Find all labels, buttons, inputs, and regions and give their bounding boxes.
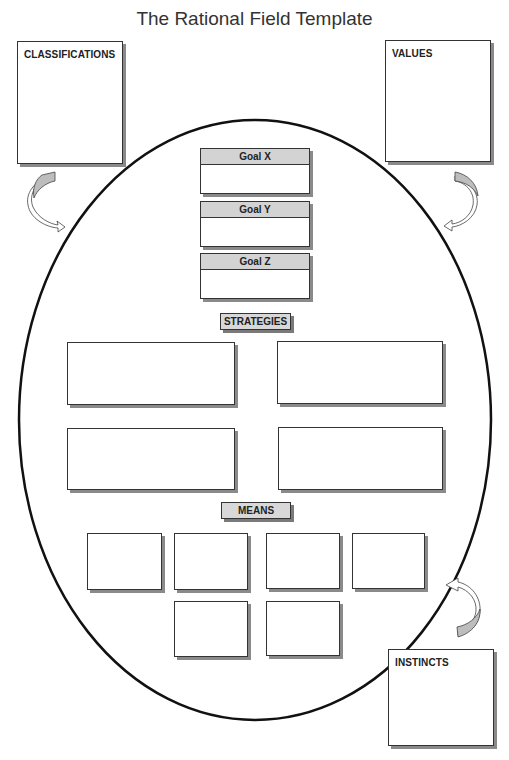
instincts-box[interactable]: INSTINCTS [388, 649, 494, 746]
curved-arrow-icon [28, 172, 65, 232]
goal-y-label: Goal Y [201, 202, 309, 218]
means-box-1[interactable] [87, 533, 162, 590]
strategy-box-3[interactable] [67, 428, 235, 490]
classifications-label: CLASSIFICATIONS [24, 49, 115, 60]
goal-x-label: Goal X [201, 149, 309, 165]
instincts-label: INSTINCTS [395, 657, 449, 668]
means-box-6[interactable] [266, 601, 340, 656]
means-box-2[interactable] [174, 533, 248, 590]
strategy-box-2[interactable] [277, 341, 443, 404]
strategies-label: STRATEGIES [220, 313, 291, 330]
means-label: MEANS [221, 502, 291, 519]
curved-arrow-icon [446, 578, 480, 637]
values-label: VALUES [392, 48, 432, 59]
values-box[interactable]: VALUES [385, 40, 491, 162]
strategy-box-4[interactable] [278, 427, 443, 490]
means-box-4[interactable] [352, 533, 425, 589]
strategy-box-1[interactable] [67, 342, 235, 405]
goal-z-label: Goal Z [201, 254, 309, 270]
classifications-box[interactable]: CLASSIFICATIONS [17, 41, 123, 164]
goal-z-box[interactable]: Goal Z [200, 253, 310, 299]
means-box-3[interactable] [266, 533, 340, 589]
means-box-5[interactable] [174, 601, 248, 657]
goal-x-box[interactable]: Goal X [200, 148, 310, 194]
curved-arrow-icon [444, 172, 478, 231]
goal-y-box[interactable]: Goal Y [200, 201, 310, 247]
